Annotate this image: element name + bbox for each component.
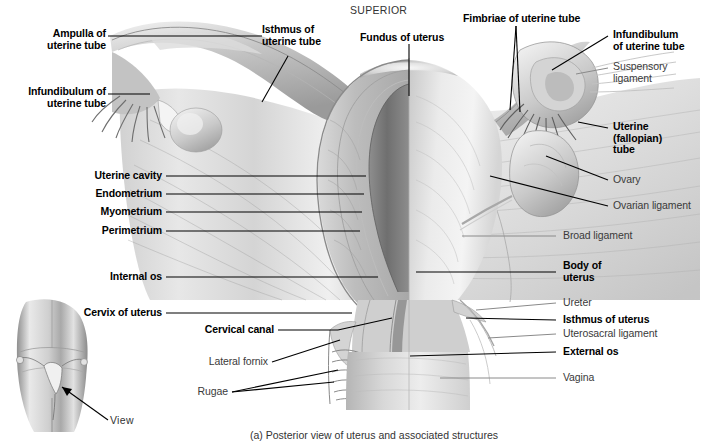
figure-canvas: SUPERIOR Ampulla of uterine tube Infundi… — [0, 0, 710, 448]
label-view: View — [110, 414, 134, 426]
label-broad-ligament: Broad ligament — [563, 230, 673, 242]
label-uterine-cavity: Uterine cavity — [40, 170, 162, 182]
label-ovarian-ligament: Ovarian ligament — [613, 200, 709, 212]
label-ovary: Ovary — [613, 174, 703, 186]
left-ovary — [170, 108, 222, 152]
label-perimetrium: Perimetrium — [40, 225, 162, 237]
label-infundibulum-of-uterine-tube-right: Infundibulum of uterine tube — [613, 29, 709, 52]
label-myometrium: Myometrium — [40, 206, 162, 218]
leader-ureter — [476, 303, 556, 310]
cervix — [352, 300, 470, 360]
label-internal-os: Internal os — [40, 271, 162, 283]
label-vagina: Vagina — [563, 372, 633, 384]
label-lateral-fornix: Lateral fornix — [170, 356, 268, 368]
label-suspensory-ligament: Suspensory ligament — [613, 61, 705, 84]
label-fimbriae-of-uterine-tube: Fimbriae of uterine tube — [463, 13, 613, 25]
label-isthmus-of-uterus: Isthmus of uterus — [563, 314, 681, 326]
label-ureter: Ureter — [563, 297, 633, 309]
label-external-os: External os — [563, 346, 663, 358]
label-fundus-of-uterus: Fundus of uterus — [360, 32, 480, 44]
label-uterine-fallopian-tube: Uterine (fallopian) tube — [613, 121, 703, 156]
inset-torso-figure — [16, 299, 108, 432]
label-uterosacral-ligament: Uterosacral ligament — [563, 328, 689, 340]
label-isthmus-of-uterine-tube: Isthmus of uterine tube — [262, 24, 372, 47]
label-body-of-uterus: Body of uterus — [563, 260, 643, 283]
label-ampulla-of-uterine-tube: Ampulla of uterine tube — [6, 28, 106, 51]
leader-uterosacral — [488, 334, 556, 338]
label-cervix-of-uterus: Cervix of uterus — [30, 307, 162, 319]
label-cervical-canal: Cervical canal — [170, 324, 274, 336]
vagina-body — [346, 352, 470, 410]
label-rugae: Rugae — [170, 386, 228, 398]
leader-rugae-b — [232, 370, 338, 392]
leader-lateral-fornix — [272, 340, 340, 362]
label-infundibulum-of-uterine-tube-left: Infundibulum of uterine tube — [0, 86, 106, 109]
label-endometrium: Endometrium — [40, 188, 162, 200]
figure-caption: (a) Posterior view of uterus and associa… — [250, 429, 498, 441]
leader-rugae-a — [232, 382, 334, 392]
superior-orientation-label: SUPERIOR — [350, 4, 407, 16]
